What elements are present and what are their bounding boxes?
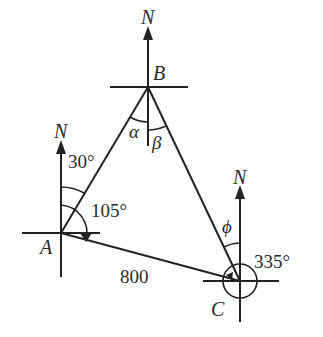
point-label-a: A [38,236,53,258]
arc-phi [224,243,240,247]
north-label-b: N [140,6,156,28]
side-ac [61,233,240,281]
angle-label-alpha: α [129,121,140,142]
point-b-compass [110,26,188,146]
point-label-b: B [153,62,165,84]
north-arrow-a-icon [56,140,66,154]
side-label-ac: 800 [120,266,149,287]
arc-30-a [61,187,84,193]
angle-label-105: 105° [91,200,127,221]
north-arrow-b-icon [143,26,153,40]
point-label-c: C [211,298,225,320]
bearing-diagram: N B N A N C 30° 105° 335° α β ϕ 800 [0,0,323,337]
north-label-a: N [53,120,69,142]
angle-label-phi: ϕ [222,216,232,237]
north-label-c: N [232,166,248,188]
angle-label-30: 30° [68,151,95,172]
arc-beta [148,126,166,130]
angle-label-335: 335° [254,251,290,272]
angle-label-beta: β [151,132,162,153]
side-bc [148,87,240,281]
